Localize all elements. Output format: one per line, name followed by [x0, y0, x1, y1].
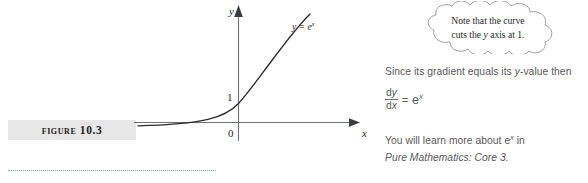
- x-axis-label: x: [361, 127, 367, 139]
- notes-column: Note that the curve cuts the y axis at 1…: [383, 0, 588, 183]
- dotted-separator: [8, 170, 216, 173]
- figure-label: Figure 10.3: [8, 120, 136, 140]
- derivative-formula: dy dx = ex: [385, 88, 423, 112]
- x-axis: [134, 118, 360, 127]
- gradient-sentence-part1: Since its gradient equals its: [385, 66, 515, 77]
- graph-figure: y x 1 0 y = ex: [128, 0, 373, 152]
- formula-right-side: ex: [412, 92, 423, 107]
- note-thought-bubble: Note that the curve cuts the y axis at 1…: [408, 1, 568, 54]
- figure-label-text: Figure 10.3: [42, 124, 103, 136]
- gradient-sentence-part2: -value then: [520, 66, 572, 77]
- exponential-graph-svg: y x 1 0 y = ex: [128, 0, 373, 152]
- curve-equation-exponent: x: [311, 20, 315, 27]
- y-axis: [234, 5, 243, 141]
- curve-equation-base: y = e: [291, 22, 312, 32]
- learn-more-sentence: You will learn more about ex in: [385, 134, 525, 146]
- learn-more-part1: You will learn more about e: [385, 135, 510, 146]
- origin-label: 0: [228, 127, 234, 139]
- fraction-numerator: dy: [385, 88, 398, 99]
- learn-more-part2: in: [514, 135, 525, 146]
- exponential-curve: [138, 14, 310, 126]
- equals-sign: =: [402, 94, 408, 106]
- book-reference: Pure Mathematics: Core 3.: [385, 152, 509, 163]
- y-axis-label: y: [228, 5, 234, 17]
- thought-bubble-shape: [408, 1, 568, 54]
- y-intercept-label: 1: [227, 91, 233, 103]
- curve-equation-label: y = ex: [291, 20, 315, 32]
- fraction-denominator: dx: [385, 100, 398, 111]
- derivative-fraction: dy dx: [385, 88, 398, 112]
- gradient-sentence: Since its gradient equals its y-value th…: [385, 66, 571, 77]
